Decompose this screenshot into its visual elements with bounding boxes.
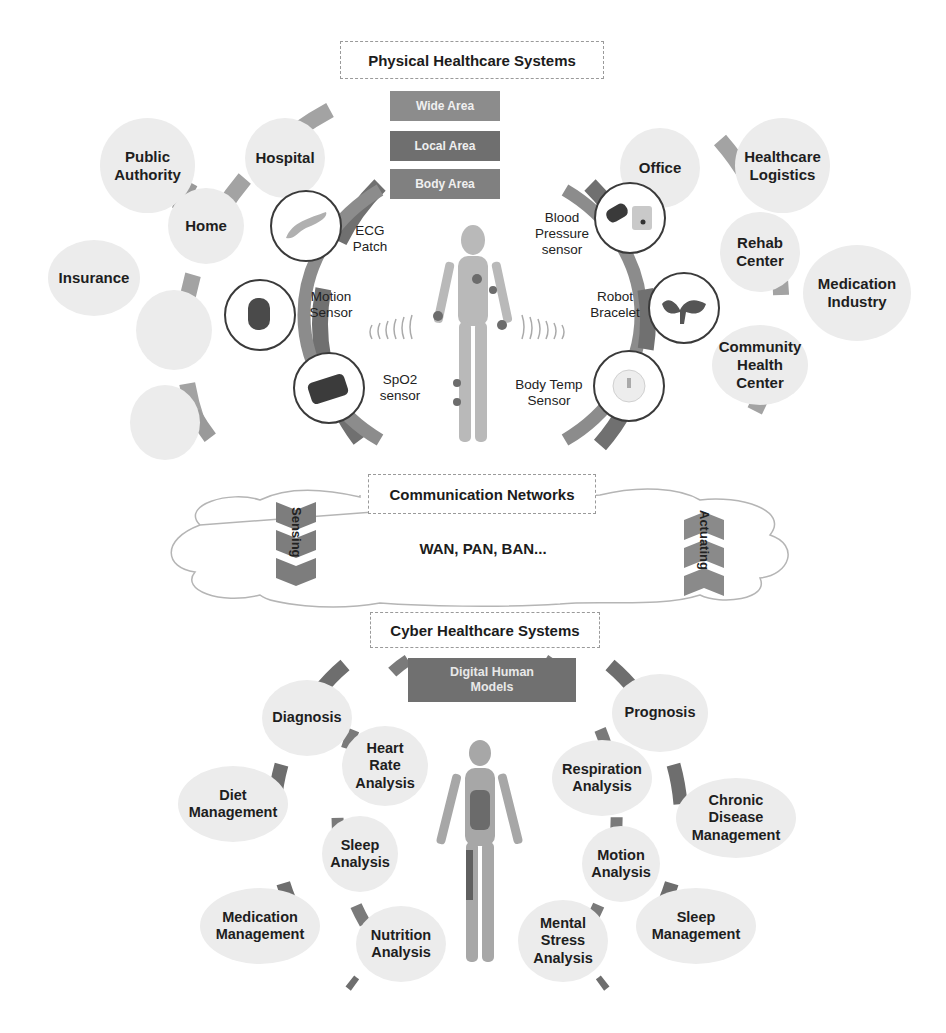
sensor-circle-blood-pressure [594, 182, 666, 254]
nutrition-analysis-label: Nutrition Analysis [361, 927, 441, 961]
blood-pressure-label: Blood Pressure sensor [528, 210, 596, 259]
bubble-blank-2 [130, 385, 200, 460]
cyber-title-text: Cyber Healthcare Systems [390, 622, 579, 639]
insurance-label: Insurance [59, 269, 130, 287]
motion-analysis-label: Motion Analysis [586, 847, 656, 881]
diet-management-label: Diet Management [183, 787, 283, 821]
blood-pressure-icon [596, 184, 664, 252]
motion-sensor-icon [226, 281, 294, 349]
bubble-nutrition-analysis: Nutrition Analysis [356, 906, 446, 982]
bubble-heart-rate-analysis: Heart Rate Analysis [342, 726, 428, 806]
home-label: Home [185, 217, 227, 235]
bubble-sleep-management: Sleep Management [636, 888, 756, 964]
sleep-management-label: Sleep Management [641, 909, 751, 943]
sensor-circle-motion [224, 279, 296, 351]
healthcare-logistics-label: Healthcare Logistics [743, 148, 823, 183]
spo2-sensor-label: SpO2 sensor [372, 372, 428, 404]
bubble-home: Home [168, 188, 244, 264]
human-figure-physical [433, 225, 513, 442]
medication-industry-label: Medication Industry [810, 275, 905, 310]
sensor-circle-body-temp [593, 350, 665, 422]
prognosis-label: Prognosis [625, 704, 696, 721]
cyber-systems-title: Cyber Healthcare Systems [370, 612, 600, 648]
bubble-community-health-center: Community Health Center [712, 325, 808, 405]
motion-sensor-label: Motion Sensor [302, 289, 360, 321]
office-label: Office [639, 159, 682, 177]
bubble-diet-management: Diet Management [178, 766, 288, 842]
heart-rate-analysis-label: Heart Rate Analysis [355, 740, 415, 791]
community-health-center-label: Community Health Center [715, 338, 805, 391]
local-area-label: Local Area [415, 139, 476, 153]
human-figure-cyber [436, 740, 524, 962]
sleep-analysis-label: Sleep Analysis [325, 837, 395, 871]
public-authority-label: Public Authority [108, 148, 188, 183]
ecg-patch-icon [272, 192, 340, 260]
rehab-center-label: Rehab Center [730, 234, 790, 269]
bubble-blank-1 [136, 290, 212, 370]
physical-title-text: Physical Healthcare Systems [368, 52, 576, 69]
wide-area-box: Wide Area [390, 91, 500, 121]
ecg-patch-label: ECG Patch [345, 223, 395, 255]
medication-management-label: Medication Management [205, 909, 315, 943]
spo2-sensor-icon [295, 354, 363, 422]
bubble-healthcare-logistics: Healthcare Logistics [735, 118, 830, 213]
diagnosis-label: Diagnosis [272, 709, 341, 726]
sensor-circle-spo2 [293, 352, 365, 424]
bubble-mental-stress-analysis: Mental Stress Analysis [518, 900, 608, 982]
body-area-box: Body Area [390, 169, 500, 199]
mental-stress-analysis-label: Mental Stress Analysis [528, 915, 598, 966]
bubble-motion-analysis: Motion Analysis [582, 826, 660, 902]
digital-human-models-label: Digital Human Models [442, 665, 542, 695]
network-types: WAN, PAN, BAN... [398, 540, 568, 557]
bubble-prognosis: Prognosis [612, 674, 708, 752]
physical-systems-title: Physical Healthcare Systems [340, 41, 604, 79]
bubble-sleep-analysis: Sleep Analysis [322, 816, 398, 892]
communication-networks-title: Communication Networks [368, 474, 596, 514]
bubble-rehab-center: Rehab Center [720, 212, 800, 292]
robot-bracelet-label: Robot Bracelet [584, 289, 646, 321]
communication-networks-text: Communication Networks [389, 486, 574, 503]
robot-bracelet-icon [650, 274, 718, 342]
body-area-label: Body Area [415, 177, 475, 191]
bubble-insurance: Insurance [48, 240, 140, 316]
body-temp-label: Body Temp Sensor [505, 377, 593, 409]
bubble-medication-industry: Medication Industry [803, 245, 911, 341]
respiration-analysis-label: Respiration Analysis [554, 761, 650, 795]
chronic-disease-management-label: Chronic Disease Management [681, 792, 791, 843]
bubble-medication-management: Medication Management [200, 888, 320, 964]
body-temp-icon [595, 352, 663, 420]
bubble-respiration-analysis: Respiration Analysis [552, 740, 652, 816]
sensor-circle-ecg [270, 190, 342, 262]
hospital-label: Hospital [255, 149, 314, 167]
sensor-circle-robot-bracelet [648, 272, 720, 344]
digital-human-models-box: Digital Human Models [408, 658, 576, 702]
local-area-box: Local Area [390, 131, 500, 161]
wide-area-label: Wide Area [416, 99, 474, 113]
sensing-arrow-label: Sensing [289, 507, 304, 558]
bubble-diagnosis: Diagnosis [262, 680, 352, 756]
bubble-hospital: Hospital [245, 118, 325, 198]
bubble-chronic-disease-management: Chronic Disease Management [676, 778, 796, 858]
actuating-arrow-label: Actuating [697, 510, 712, 570]
